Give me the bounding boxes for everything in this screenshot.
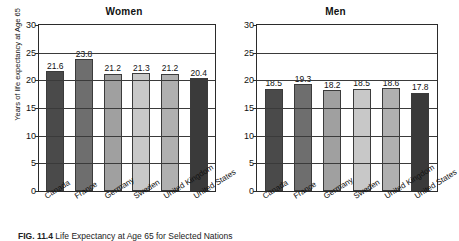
bar-value-label: 17.8 — [411, 83, 430, 92]
y-axis-tick-mark — [35, 53, 39, 54]
x-axis-labels-women: CanadaFranceGermanySwedenUnited KingdomU… — [0, 193, 222, 227]
figure-caption-text: Life Expectancy at Age 65 for Selected N… — [55, 231, 232, 241]
bar: 18.2 — [323, 90, 341, 191]
y-axis-tick-mark — [253, 191, 257, 192]
gridline — [257, 163, 437, 164]
panel-women: Women Years of life expectancy at Age 65… — [0, 0, 222, 225]
plot-area-men: 18.519.318.218.518.617.8 051015202530 — [256, 24, 438, 192]
y-axis-tick-mark — [253, 163, 257, 164]
x-axis-labels-men: CanadaFranceGermanySwedenUnited KingdomU… — [222, 193, 435, 227]
bar-value-label: 20.4 — [189, 69, 208, 78]
y-axis-tick-mark — [35, 108, 39, 109]
bar: 21.2 — [104, 74, 122, 191]
panel-title-women: Women — [0, 6, 222, 17]
bar: 18.6 — [382, 88, 400, 191]
figure-caption: FIG. 11.4 Life Expectancy at Age 65 for … — [18, 231, 233, 241]
bar-value-label: 21.2 — [103, 64, 122, 73]
y-axis-tick-mark — [253, 136, 257, 137]
y-axis-tick-mark — [253, 53, 257, 54]
y-axis-label: Years of life expectancy at Age 65 — [13, 0, 22, 140]
y-axis-tick-mark — [35, 163, 39, 164]
bar: 21.6 — [46, 71, 64, 191]
bar-value-label: 21.6 — [46, 62, 65, 71]
bar: 21.2 — [161, 74, 179, 191]
y-axis-tick-mark — [253, 25, 257, 26]
y-axis-tick-mark — [35, 25, 39, 26]
bar: 23.8 — [75, 59, 93, 191]
figure-number: FIG. 11.4 — [18, 231, 53, 241]
plot-area-women: 21.623.821.221.321.220.4 051015202530 — [38, 24, 216, 192]
y-axis-tick-mark — [35, 136, 39, 137]
gridline — [39, 108, 215, 109]
gridline — [39, 53, 215, 54]
panel-men: Men 18.519.318.218.518.617.8 05101520253… — [222, 0, 435, 225]
bar-value-label: 21.2 — [161, 64, 180, 73]
y-axis-tick-mark — [35, 191, 39, 192]
bar-value-label: 18.2 — [323, 81, 342, 90]
bar: 18.5 — [353, 89, 371, 191]
y-axis-tick-mark — [253, 80, 257, 81]
bar-value-label: 21.3 — [132, 64, 151, 73]
y-axis-tick-mark — [253, 108, 257, 109]
bar: 21.3 — [132, 73, 150, 191]
bar: 19.3 — [294, 84, 312, 191]
bar: 18.5 — [265, 89, 283, 191]
gridline — [257, 108, 437, 109]
gridline — [39, 136, 215, 137]
gridline — [39, 80, 215, 81]
panel-title-men: Men — [222, 6, 435, 17]
gridline — [257, 53, 437, 54]
gridline — [257, 136, 437, 137]
bar-value-label: 23.8 — [75, 50, 94, 59]
gridline — [257, 80, 437, 81]
y-axis-tick-mark — [35, 80, 39, 81]
gridline — [39, 163, 215, 164]
